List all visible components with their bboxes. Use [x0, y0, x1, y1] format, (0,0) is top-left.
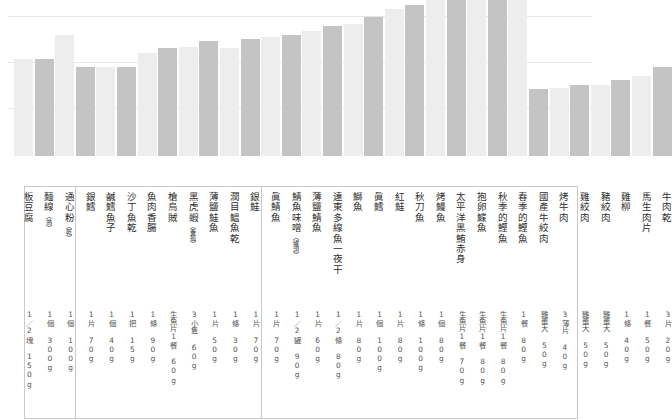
food-column[interactable]: 通心粉（乾）1個 100g [54, 186, 75, 420]
food-name: 薄鹽鮭魚 [199, 192, 220, 304]
bar-31 [653, 67, 672, 156]
bar-13 [282, 35, 301, 156]
food-name: 鹹鱈魚子 [96, 192, 117, 304]
food-column[interactable]: 銀鮭1片 70g [240, 186, 261, 420]
food-column[interactable]: 黑虎蝦（養殖）3小隻 60g [178, 186, 199, 420]
chart-plot-area [0, 0, 598, 190]
food-name: 黑虎蝦（養殖） [178, 192, 199, 304]
food-column[interactable]: 潤目鰮魚乾1條 30g [219, 186, 240, 420]
food-column[interactable]: 麵線（熟）1個 300g [34, 186, 55, 420]
food-column[interactable]: 鹹鱈魚子1個 40g [96, 186, 117, 420]
serving-size: 1片 80g [343, 310, 364, 414]
food-column[interactable]: 烤鰻魚1個 80g [425, 186, 446, 420]
food-column[interactable]: 秋刀魚1條 100g [405, 186, 426, 420]
bar-12 [261, 37, 280, 156]
food-column[interactable]: 銀鱈1片 70g [75, 186, 96, 420]
serving-size: 1片 80g [384, 310, 405, 414]
food-column[interactable]: 魚肉香腸1條 90g [137, 186, 158, 420]
serving-size: 1個 100g [54, 310, 75, 414]
bar-23 [488, 0, 507, 156]
food-column[interactable]: 雞絞肉雞蛋大 50g [569, 186, 590, 420]
food-name: 豬絞肉 [590, 192, 611, 304]
food-column[interactable]: 眞鱈1個 100g [363, 186, 384, 420]
food-name: 槍烏賊 [157, 192, 178, 304]
serving-size: 1片 70g [240, 310, 261, 414]
food-column[interactable]: 豬絞肉雞蛋大 50g [590, 186, 611, 420]
food-name: 國產牛絞肉 [528, 192, 549, 304]
bar-2 [55, 35, 74, 156]
bar-18 [385, 9, 404, 156]
food-column[interactable]: 遠東多線魚一夜干1／2條 80g [322, 186, 343, 420]
serving-size: 1把 15g [116, 310, 137, 414]
food-column[interactable]: 沙丁魚乾1把 15g [116, 186, 137, 420]
food-name: 魚肉香腸 [137, 192, 158, 304]
food-column[interactable]: 太平洋黑鮪赤身生魚片1餐 70g [446, 186, 467, 420]
bar-21 [447, 0, 466, 156]
food-column[interactable]: 馬生肉片1餐 50g [631, 186, 652, 420]
food-column[interactable]: 鯖魚味噌（罐頭）1／2罐 90g [281, 186, 302, 420]
food-name: 烤鰻魚 [425, 192, 446, 304]
food-name: 雞柳 [611, 192, 632, 304]
bar-series [0, 0, 598, 190]
food-column[interactable]: 板豆腐1／2塊 150g [13, 186, 34, 420]
bar-10 [220, 48, 239, 156]
bar-16 [344, 24, 363, 156]
serving-size: 生魚片1餐 60g [157, 310, 178, 414]
food-name: 沙丁魚乾 [116, 192, 137, 304]
serving-size: 1／2條 80g [322, 310, 343, 414]
bar-6 [138, 53, 157, 156]
serving-size: 雞蛋大 50g [528, 310, 549, 414]
bar-14 [302, 31, 321, 156]
food-column[interactable]: 抱卵鰈魚生魚片1餐 80g [466, 186, 487, 420]
food-column[interactable]: 烤牛肉3薄片 40g [549, 186, 570, 420]
serving-size: 1個 100g [363, 310, 384, 414]
serving-size: 1條 90g [137, 310, 158, 414]
bar-28 [591, 85, 610, 156]
food-column[interactable]: 牛肉乾3片 20g [652, 186, 672, 420]
bar-0 [14, 59, 33, 156]
food-name: 麵線（熟） [34, 192, 55, 304]
serving-size: 1片 70g [260, 310, 281, 414]
food-name: 眞鱈 [363, 192, 384, 304]
food-name: 秋刀魚 [405, 192, 426, 304]
serving-size: 1條 100g [405, 310, 426, 414]
food-name: 通心粉（乾） [54, 192, 75, 304]
serving-size: 1條 30g [219, 310, 240, 414]
serving-size: 1餐 50g [631, 310, 652, 414]
bar-8 [179, 47, 198, 156]
serving-size: 1片 70g [75, 310, 96, 414]
food-column[interactable]: 秋季的鰹魚生魚片1餐 80g [487, 186, 508, 420]
serving-size: 1／2塊 150g [13, 310, 34, 414]
bar-30 [632, 76, 651, 156]
food-column[interactable]: 雞柳1條 40g [611, 186, 632, 420]
serving-size: 雞蛋大 50g [590, 310, 611, 414]
food-column[interactable]: 薄鹽鮭魚1片 50g [199, 186, 220, 420]
food-column[interactable]: 槍烏賊生魚片1餐 60g [157, 186, 178, 420]
food-column[interactable]: 薄鹽鯖魚1片 60g [302, 186, 323, 420]
food-name: 春季的鰹魚 [508, 192, 529, 304]
bar-4 [96, 67, 115, 156]
bar-27 [570, 85, 589, 156]
food-name: 秋季的鰹魚 [487, 192, 508, 304]
food-column[interactable]: 國產牛絞肉雞蛋大 50g [528, 186, 549, 420]
bar-1 [35, 59, 54, 156]
food-name: 銀鱈 [75, 192, 96, 304]
bar-29 [611, 80, 630, 156]
food-label-table: 板豆腐1／2塊 150g麵線（熟）1個 300g通心粉（乾）1個 100g銀鱈1… [0, 186, 598, 420]
bar-11 [241, 39, 260, 156]
food-name: 紅鮭 [384, 192, 405, 304]
serving-size: 1餐 80g [508, 310, 529, 414]
food-column[interactable]: 春季的鰹魚1餐 80g [508, 186, 529, 420]
bar-20 [426, 0, 445, 156]
food-name: 薄鹽鯖魚 [302, 192, 323, 304]
food-column[interactable]: 眞鯖魚1片 70g [260, 186, 281, 420]
food-name: 抱卵鰈魚 [466, 192, 487, 304]
food-column[interactable]: 紅鮭1片 80g [384, 186, 405, 420]
serving-size: 1片 60g [302, 310, 323, 414]
serving-size: 3小隻 60g [178, 310, 199, 414]
bar-19 [405, 5, 424, 156]
bar-15 [323, 26, 342, 156]
bar-5 [117, 67, 136, 156]
food-column[interactable]: 鰤魚1片 80g [343, 186, 364, 420]
